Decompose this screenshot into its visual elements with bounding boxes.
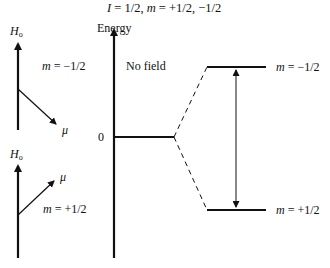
upper-level-label: m = −1/2 (276, 61, 320, 73)
mu-label-bottom: μ (60, 171, 66, 183)
split-line-upper (174, 67, 207, 137)
no-field-label: No field (126, 60, 166, 72)
lower-level-label: m = +1/2 (276, 204, 320, 216)
field-subscript: o (19, 30, 23, 39)
m-value: = −1/2 (285, 60, 320, 74)
m-symbol: m (276, 203, 285, 217)
m-symbol: m (42, 59, 51, 73)
title-m-value: = +1/2, −1/2 (156, 1, 222, 15)
moment-arrow-top (18, 89, 56, 124)
zeeman-diagram (0, 0, 330, 268)
diagram-title: I = 1/2, m = +1/2, −1/2 (107, 2, 221, 15)
title-I-value: = 1/2, (111, 1, 147, 15)
m-value: = +1/2 (285, 203, 320, 217)
mu-label-top: μ (62, 124, 68, 136)
m-label-top: m = −1/2 (42, 60, 86, 72)
m-symbol: m (276, 60, 285, 74)
m-symbol: m (43, 202, 52, 216)
m-label-bottom: m = +1/2 (43, 203, 87, 215)
field-label-bottom: Ho (10, 148, 23, 162)
energy-axis-label: Energy (97, 22, 131, 34)
field-symbol: H (10, 24, 19, 38)
split-line-lower (174, 137, 207, 210)
title-m: m (147, 1, 156, 15)
field-symbol: H (10, 147, 19, 161)
zero-label: 0 (98, 131, 104, 143)
field-label-top: Ho (10, 25, 23, 39)
field-subscript: o (19, 153, 23, 162)
m-value: = −1/2 (51, 59, 86, 73)
m-value: = +1/2 (52, 202, 87, 216)
